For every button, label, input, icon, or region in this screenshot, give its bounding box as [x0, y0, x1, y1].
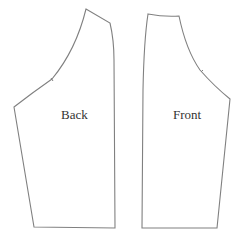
sleeve-pattern-diagram: Back Front	[0, 0, 236, 248]
back-sleeve-piece: Back	[14, 9, 115, 228]
back-label: Back	[61, 107, 88, 122]
front-sleeve-piece: Front	[142, 14, 230, 228]
front-label: Front	[173, 107, 202, 122]
front-notch-mark	[201, 70, 203, 72]
